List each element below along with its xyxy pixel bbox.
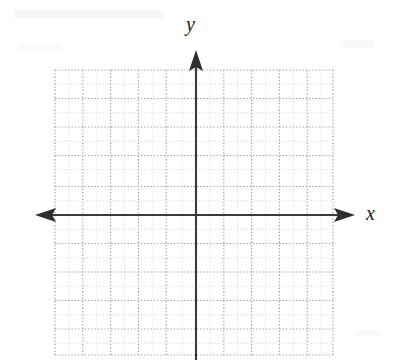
paper-artifact (355, 330, 381, 336)
coordinate-plane-figure: y x (0, 0, 398, 360)
coordinate-plane-graphic (0, 0, 398, 360)
minor-gridlines (55, 70, 333, 355)
paper-artifact (14, 10, 164, 19)
paper-artifact (340, 40, 374, 48)
y-axis (189, 50, 203, 360)
y-axis-label: y (186, 14, 195, 34)
paper-artifact (18, 44, 62, 51)
x-axis-label: x (366, 203, 375, 223)
